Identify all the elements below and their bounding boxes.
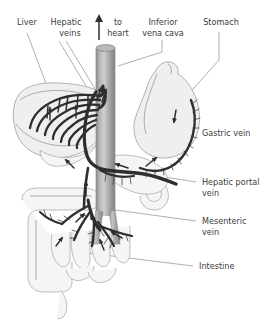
label-inferior-vena-cava-line2: vena cava xyxy=(142,28,184,38)
diagram-canvas: Liver Hepatic veins to heart Inferior ve… xyxy=(0,0,280,324)
leader-liver xyxy=(27,33,47,86)
to-heart-arrow-icon xyxy=(95,14,103,40)
label-hepatic-portal-vein-line1: Hepatic portal xyxy=(202,177,259,187)
label-hepatic-portal-vein-line2: vein xyxy=(202,188,219,198)
label-hepatic-veins-line1: Hepatic xyxy=(50,17,81,27)
label-inferior-vena-cava-line1: Inferior xyxy=(148,17,178,27)
label-mesenteric-vein-line2: vein xyxy=(202,227,219,237)
label-mesenteric-vein-line1: Mesenteric xyxy=(202,216,246,226)
label-liver: Liver xyxy=(17,17,38,27)
hepatic-portal-system-diagram: Liver Hepatic veins to heart Inferior ve… xyxy=(0,0,280,324)
label-intestine: Intestine xyxy=(199,261,234,271)
intestine-organ xyxy=(22,178,168,319)
label-gastric-vein: Gastric vein xyxy=(202,128,250,138)
label-stomach: Stomach xyxy=(203,17,239,27)
inferior-vena-cava-vessel xyxy=(92,45,120,244)
leader-hepatic-veins-a xyxy=(59,41,86,86)
leader-inferior-vena-cava xyxy=(118,40,162,66)
label-to-heart-line2: heart xyxy=(107,28,129,38)
label-hepatic-veins-line2: veins xyxy=(59,28,80,38)
label-to-heart-line1: to xyxy=(114,17,122,27)
